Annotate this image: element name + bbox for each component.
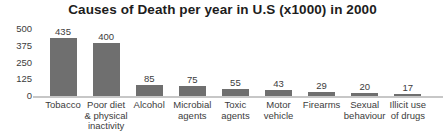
bar xyxy=(93,43,120,96)
y-tick-label: 500 xyxy=(2,23,32,35)
chart-title: Causes of Death per year in U.S (x1000) … xyxy=(0,2,445,17)
x-category-label-line: vehicle xyxy=(250,111,308,122)
bar-value-label: 435 xyxy=(43,26,83,37)
bar xyxy=(179,86,206,96)
x-category-label: Illicit useof drugs xyxy=(379,100,437,121)
y-tick-label: 375 xyxy=(2,40,32,52)
bar-value-label: 43 xyxy=(259,78,299,89)
bar xyxy=(308,92,335,96)
bar-value-label: 75 xyxy=(172,74,212,85)
bar xyxy=(50,38,77,96)
bar xyxy=(394,94,421,96)
bar-value-label: 85 xyxy=(129,73,169,84)
bar-chart: Causes of Death per year in U.S (x1000) … xyxy=(0,0,445,134)
bar-value-label: 17 xyxy=(388,82,428,93)
bar-value-label: 400 xyxy=(86,31,126,42)
bar xyxy=(351,93,378,96)
x-axis-line xyxy=(33,96,443,98)
bar-value-label: 29 xyxy=(302,80,342,91)
bar xyxy=(136,85,163,96)
bar-value-label: 55 xyxy=(215,77,255,88)
y-tick-label: 250 xyxy=(2,57,32,69)
x-category-label-line: inactivity xyxy=(77,121,135,132)
bar xyxy=(265,90,292,96)
x-category-label-line: of drugs xyxy=(379,111,437,122)
x-category-label-line: Illicit use xyxy=(379,100,437,111)
bar xyxy=(222,89,249,96)
bar-value-label: 20 xyxy=(345,81,385,92)
y-tick-label: 0 xyxy=(2,90,32,102)
y-tick-label: 125 xyxy=(2,73,32,85)
